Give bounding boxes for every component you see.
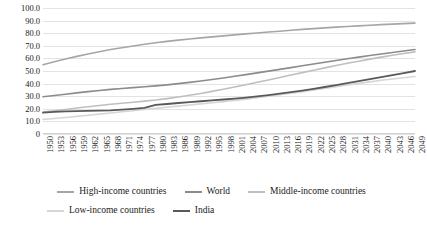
x-tick-label: 1980 — [159, 136, 168, 153]
legend-swatch-icon — [248, 191, 265, 193]
x-tick-label: 1995 — [215, 136, 224, 153]
legend-swatch-icon — [185, 191, 202, 193]
series-line — [43, 23, 415, 65]
plot-wrapper: 100.090.080.070.060.050.040.030.020.010.… — [0, 0, 423, 150]
x-tick-label: 1971 — [125, 136, 134, 153]
x-tick-label: 1992 — [204, 136, 213, 153]
x-tick-label: 1983 — [170, 136, 179, 153]
legend-label: High-income countries — [79, 187, 166, 197]
x-tick-label: 1998 — [227, 136, 236, 153]
x-tick-label: 2037 — [373, 136, 382, 153]
x-tick-label: 1986 — [181, 136, 190, 153]
plot-area — [43, 8, 415, 134]
legend-swatch-icon — [173, 210, 190, 212]
x-tick-label: 2019 — [305, 136, 314, 153]
x-tick-label: 2049 — [418, 136, 427, 153]
y-tick-label: 60.0 — [25, 54, 40, 63]
y-tick-label: 80.0 — [25, 29, 40, 38]
legend-swatch-icon — [47, 210, 64, 212]
y-axis: 100.090.080.070.060.050.040.030.020.010.… — [0, 8, 40, 142]
series-line — [43, 52, 415, 112]
x-axis: 1950195319561959196219651968197119741977… — [43, 136, 415, 180]
x-tick-label: 2007 — [260, 136, 269, 153]
legend-label: Low-income countries — [69, 206, 155, 216]
legend-label: World — [207, 187, 231, 197]
x-tick-label: 2013 — [283, 136, 292, 153]
legend-item[interactable]: World — [185, 187, 231, 197]
x-tick-label: 1962 — [91, 136, 100, 153]
x-tick-label: 1950 — [46, 136, 55, 153]
y-tick-label: 100.0 — [21, 4, 40, 13]
x-tick-label: 1968 — [114, 136, 123, 153]
x-tick-label: 2025 — [328, 136, 337, 153]
x-tick-label: 2031 — [351, 136, 360, 153]
legend-label: India — [195, 206, 215, 216]
y-tick-label: 40.0 — [25, 79, 40, 88]
x-tick-label: 2034 — [362, 136, 371, 153]
y-tick-label: 50.0 — [25, 67, 40, 76]
y-tick-label: 10.0 — [25, 117, 40, 126]
x-tick-label: 2046 — [407, 136, 416, 153]
legend-swatch-icon — [57, 191, 74, 193]
x-tick-label: 1974 — [136, 136, 145, 153]
y-tick-label: 70.0 — [25, 42, 40, 51]
series-line — [43, 50, 415, 97]
x-tick-label: 2043 — [396, 136, 405, 153]
x-tick-label: 2004 — [249, 136, 258, 153]
legend-row: High-income countriesWorldMiddle-income … — [0, 182, 423, 201]
y-tick-label: 30.0 — [25, 92, 40, 101]
series-line — [43, 77, 415, 120]
x-tick-label: 1956 — [69, 136, 78, 153]
chart-legend: High-income countriesWorldMiddle-income … — [0, 182, 423, 222]
legend-item[interactable]: Middle-income countries — [248, 187, 366, 197]
gridline — [43, 134, 415, 135]
x-tick-label: 2016 — [294, 136, 303, 153]
y-tick-label: 0 — [36, 130, 40, 139]
legend-label: Middle-income countries — [270, 187, 366, 197]
legend-row: Low-income countriesIndia — [0, 201, 423, 220]
x-tick-label: 2010 — [272, 136, 281, 153]
legend-item[interactable]: India — [173, 206, 215, 216]
legend-item[interactable]: Low-income countries — [47, 206, 155, 216]
x-tick-label: 1965 — [103, 136, 112, 153]
y-tick-label: 20.0 — [25, 105, 40, 114]
x-tick-label: 1989 — [193, 136, 202, 153]
series-lines — [43, 8, 415, 134]
x-tick-label: 2040 — [384, 136, 393, 153]
x-tick-label: 2028 — [339, 136, 348, 153]
y-tick-label: 90.0 — [25, 16, 40, 25]
x-tick-label: 2022 — [317, 136, 326, 153]
x-tick-label: 1959 — [80, 136, 89, 153]
legend-item[interactable]: High-income countries — [57, 187, 166, 197]
x-axis-line — [43, 133, 415, 134]
x-tick-label: 1953 — [57, 136, 66, 153]
x-tick-label: 2001 — [238, 136, 247, 153]
x-tick-label: 1977 — [148, 136, 157, 153]
